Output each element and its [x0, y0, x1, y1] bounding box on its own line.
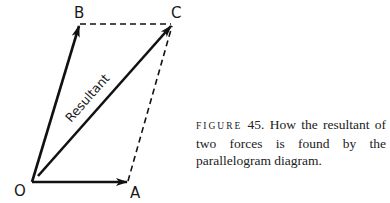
parallelogram-diagram: O A B C Resultant — [0, 0, 390, 203]
figure-label: Figure — [196, 121, 242, 131]
point-label-o: O — [14, 182, 26, 200]
figure-number: 45. — [248, 117, 265, 132]
point-label-c: C — [171, 4, 181, 22]
point-label-a: A — [130, 184, 141, 202]
resultant-label: Resultant — [62, 71, 112, 125]
figure-caption: Figure 45. How the resultant of two forc… — [196, 116, 386, 169]
point-label-b: B — [74, 4, 84, 22]
